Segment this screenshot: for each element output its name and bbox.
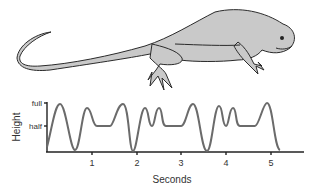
chart-axes (44, 102, 304, 155)
eye-icon (280, 36, 284, 40)
x-tick-5: 5 (268, 158, 273, 168)
y-tick-half: half (29, 122, 43, 131)
figure: full half Height 1 2 3 4 5 Seconds (0, 0, 311, 193)
x-tick-2: 2 (134, 158, 139, 168)
x-axis-label: Seconds (153, 174, 192, 185)
lizard-illustration (17, 10, 294, 90)
y-axis-label: Height (11, 112, 22, 141)
x-tick-1: 1 (89, 158, 94, 168)
x-tick-3: 3 (178, 158, 183, 168)
x-tick-4: 4 (223, 158, 228, 168)
y-tick-full: full (32, 99, 42, 108)
height-trace (47, 103, 280, 151)
